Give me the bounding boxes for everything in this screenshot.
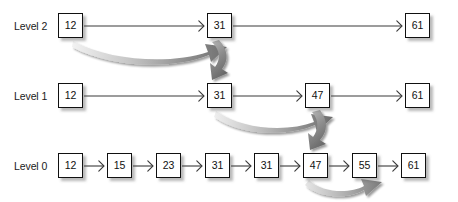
node-level-1-31-1: 31 [207,83,232,108]
node-level-0-47-5: 47 [303,153,328,178]
node-value: 47 [304,154,327,176]
link-arrow-level-0-12-to-15-0 [84,161,104,171]
node-value: 61 [402,154,425,176]
node-value: 12 [59,154,82,176]
level-label-2: Level 2 [14,20,47,32]
node-level-0-15-1: 15 [107,153,132,178]
node-value: 31 [206,154,229,176]
node-level-0-61-7: 61 [401,153,426,178]
node-level-0-55-6: 55 [352,153,377,178]
node-level-0-23-2: 23 [156,153,181,178]
link-arrow-level-2-31-to-61-1 [233,21,402,31]
node-value: 47 [306,84,329,106]
link-arrow-level-0-31-to-47-4 [280,161,300,171]
link-arrow-level-0-15-to-23-1 [133,161,153,171]
link-arrow-level-1-31-to-47-1 [233,91,302,101]
link-arrow-level-0-31-to-31-3 [231,161,251,171]
node-value: 61 [406,84,429,106]
node-level-1-61-3: 61 [405,83,430,108]
search-arrow-l0-47-to-55 [305,179,382,196]
link-arrow-level-1-47-to-61-2 [331,91,402,101]
link-arrow-level-0-47-to-55-5 [329,161,349,171]
node-value: 12 [59,14,82,36]
skip-list-diagram: Level 2 Level 1 Level 0 1231611231476112… [0,0,458,202]
node-value: 12 [59,84,82,106]
link-arrow-level-1-12-to-31-0 [84,91,204,101]
node-value: 31 [255,154,278,176]
level-label-0: Level 0 [14,160,47,172]
level-label-1: Level 1 [14,90,47,102]
node-level-1-47-2: 47 [305,83,330,108]
node-value: 61 [406,14,429,36]
search-arrow-l2-12-to-31 [72,41,227,65]
node-level-0-31-3: 31 [205,153,230,178]
link-arrow-level-0-23-to-31-2 [182,161,202,171]
node-level-2-12-0: 12 [58,13,83,38]
level-link-arrows [84,21,402,171]
node-value: 31 [208,84,231,106]
node-level-2-61-2: 61 [405,13,430,38]
node-value: 55 [353,154,376,176]
node-level-0-12-0: 12 [58,153,83,178]
search-arrow-l1-47-down-to-l0-47 [308,110,326,150]
node-level-1-12-0: 12 [58,83,83,108]
node-value: 15 [108,154,131,176]
link-arrow-level-0-55-to-61-6 [378,161,398,171]
link-arrow-level-2-12-to-31-0 [84,21,204,31]
node-level-2-31-1: 31 [207,13,232,38]
node-value: 23 [157,154,180,176]
node-level-0-31-4: 31 [254,153,279,178]
node-value: 31 [208,14,231,36]
